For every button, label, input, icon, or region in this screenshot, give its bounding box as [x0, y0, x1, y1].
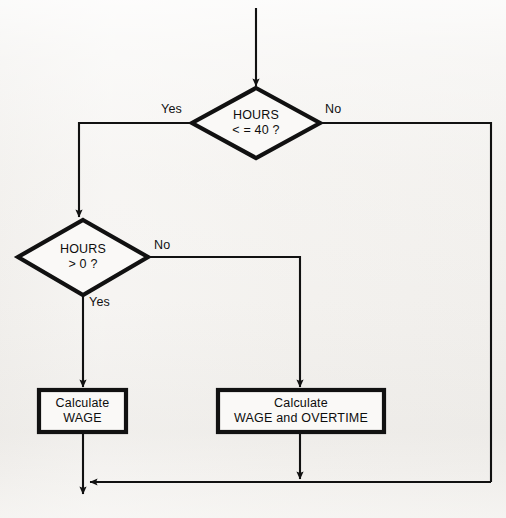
- decision-hours-gt-0-line2: > 0 ?: [23, 257, 143, 272]
- decision-hours-le-40-label: HOURS < = 40 ?: [196, 108, 316, 138]
- process-calculate-wage-overtime-label: Calculate WAGE and OVERTIME: [218, 396, 384, 426]
- decision-hours-le-40-line2: < = 40 ?: [196, 123, 316, 138]
- connector-d1-yes: [79, 123, 192, 217]
- process-calculate-wage-label: Calculate WAGE: [39, 396, 126, 426]
- branch-label-d2-yes: Yes: [89, 295, 110, 309]
- decision-hours-le-40-line1: HOURS: [196, 108, 316, 123]
- decision-hours-gt-0-label: HOURS > 0 ?: [23, 242, 143, 272]
- process-calculate-wage-line2: WAGE: [39, 411, 126, 426]
- decision-hours-gt-0-line1: HOURS: [23, 242, 143, 257]
- flowchart-page: HOURS < = 40 ? HOURS > 0 ? Calculate WAG…: [0, 0, 506, 518]
- process-calculate-wage-line1: Calculate: [39, 396, 126, 411]
- connector-d2-no: [148, 257, 300, 387]
- branch-label-d1-no: No: [325, 102, 341, 116]
- process-calculate-wage-overtime-line2: WAGE and OVERTIME: [218, 411, 384, 426]
- branch-label-d1-yes: Yes: [161, 102, 182, 116]
- branch-label-d2-no: No: [154, 238, 170, 252]
- process-calculate-wage-overtime-line1: Calculate: [218, 396, 384, 411]
